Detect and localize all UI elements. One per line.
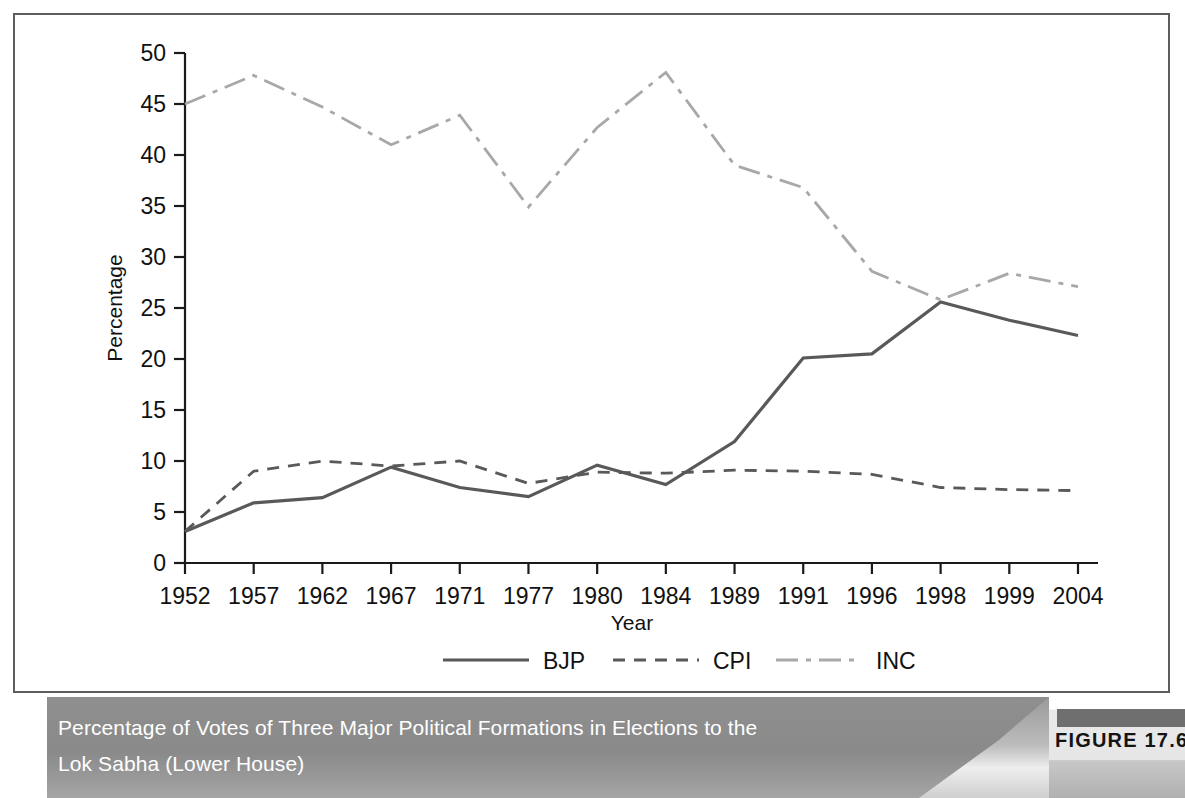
x-axis-tick-label: 1980: [572, 583, 623, 609]
y-axis-tick-label: 0: [153, 550, 166, 576]
legend-label-bjp: BJP: [543, 648, 585, 674]
caption-band: Percentage of Votes of Three Major Polit…: [47, 697, 1185, 798]
x-axis-tick-label: 1952: [159, 583, 210, 609]
y-axis-tick-label: 5: [153, 499, 166, 525]
x-axis-tick-label: 1957: [228, 583, 279, 609]
caption-line-2: Lok Sabha (Lower House): [58, 746, 958, 782]
series-line-inc: [185, 72, 1078, 299]
x-axis-tick-label: 1967: [365, 583, 416, 609]
x-axis-tick-label: 1991: [778, 583, 829, 609]
x-axis-tick-label: 1989: [709, 583, 760, 609]
figure-container: 05101520253035404550 1952195719621967197…: [0, 0, 1185, 798]
y-axis-tick-label: 30: [140, 244, 166, 270]
legend-label-cpi: CPI: [713, 648, 751, 674]
y-axis-tick-label: 35: [140, 193, 166, 219]
y-axis-tick-label: 45: [140, 91, 166, 117]
line-chart: 05101520253035404550 1952195719621967197…: [0, 0, 1185, 690]
y-axis: 05101520253035404550: [140, 40, 185, 576]
x-axis: 1952195719621967197119771980198419891991…: [159, 563, 1103, 609]
y-axis-tick-label: 40: [140, 142, 166, 168]
chart-plot-area: 05101520253035404550 1952195719621967197…: [0, 0, 1185, 690]
badge-bar-decoration: [1057, 709, 1185, 727]
legend-label-inc: INC: [876, 648, 916, 674]
caption-line-1: Percentage of Votes of Three Major Polit…: [58, 710, 958, 746]
x-axis-tick-label: 1971: [434, 583, 485, 609]
chart-legend: BJPCPIINC: [443, 648, 916, 674]
x-axis-tick-label: 1998: [915, 583, 966, 609]
x-axis-tick-label: 1999: [984, 583, 1035, 609]
x-axis-title: Year: [611, 611, 653, 634]
x-axis-tick-label: 1962: [297, 583, 348, 609]
y-axis-tick-label: 20: [140, 346, 166, 372]
series-line-cpi: [185, 461, 1078, 531]
x-axis-tick-label: 1996: [846, 583, 897, 609]
x-axis-tick-label: 1977: [503, 583, 554, 609]
x-axis-tick-label: 1984: [640, 583, 691, 609]
y-axis-title: Percentage: [103, 254, 126, 361]
y-axis-tick-label: 15: [140, 397, 166, 423]
chart-series-group: [185, 72, 1078, 531]
figure-number-label: FIGURE 17.6: [1055, 729, 1185, 752]
y-axis-tick-label: 10: [140, 448, 166, 474]
series-line-bjp: [185, 302, 1078, 532]
figure-caption: Percentage of Votes of Three Major Polit…: [58, 710, 958, 782]
x-axis-tick-label: 2004: [1052, 583, 1103, 609]
y-axis-tick-label: 50: [140, 40, 166, 66]
y-axis-tick-label: 25: [140, 295, 166, 321]
figure-number-badge: FIGURE 17.6: [1049, 697, 1185, 798]
